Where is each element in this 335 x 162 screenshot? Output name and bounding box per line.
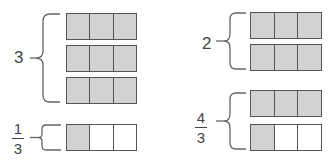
fraction-bar xyxy=(66,45,137,72)
bar-cell-shaded xyxy=(114,46,136,71)
fraction-line xyxy=(12,138,24,139)
fraction-denominator: 3 xyxy=(197,130,205,145)
bar-cell-shaded xyxy=(298,13,321,38)
fraction-bar xyxy=(66,77,137,104)
bar-cell-shaded xyxy=(90,78,113,103)
bar-cell-shaded xyxy=(251,45,275,70)
bar-cell-empty xyxy=(298,125,321,150)
curly-brace-icon xyxy=(28,13,62,103)
bar-cell-shaded xyxy=(114,14,136,39)
fraction-numerator: 1 xyxy=(14,121,22,136)
bar-cell-shaded xyxy=(251,13,275,38)
bar-cell-shaded xyxy=(67,78,90,103)
bar-cell-shaded xyxy=(251,91,275,116)
fraction-numerator: 4 xyxy=(197,110,205,125)
curly-brace-icon xyxy=(214,12,248,70)
bar-cell-shaded xyxy=(251,125,275,150)
fraction-bar xyxy=(250,90,322,117)
fraction-line xyxy=(195,127,207,128)
bar-cell-shaded xyxy=(275,13,299,38)
bar-cell-shaded xyxy=(90,46,113,71)
fraction-bar xyxy=(66,13,137,40)
bar-cell-shaded xyxy=(298,45,321,70)
bar-cell-shaded xyxy=(67,14,90,39)
group-label-three: 3 xyxy=(14,49,23,66)
bar-cell-empty xyxy=(114,125,136,150)
bar-cell-shaded xyxy=(275,45,299,70)
fraction-bar xyxy=(250,44,322,71)
fraction-label-four-thirds: 4 3 xyxy=(195,110,207,145)
bar-cell-shaded xyxy=(114,78,136,103)
bar-cell-shaded xyxy=(90,14,113,39)
bar-cell-shaded xyxy=(298,91,321,116)
fraction-bar xyxy=(250,124,322,151)
bar-cell-empty xyxy=(90,125,113,150)
fraction-bar xyxy=(66,124,137,151)
curly-brace-icon xyxy=(30,124,64,151)
fraction-denominator: 3 xyxy=(14,141,22,156)
bar-cell-empty xyxy=(275,125,299,150)
group-label-two: 2 xyxy=(202,35,211,52)
fraction-label-one-third: 1 3 xyxy=(12,121,24,156)
bar-cell-shaded xyxy=(67,125,90,150)
bar-cell-shaded xyxy=(67,46,90,71)
bar-cell-shaded xyxy=(275,91,299,116)
curly-brace-icon xyxy=(214,92,248,150)
fraction-bar xyxy=(250,12,322,39)
